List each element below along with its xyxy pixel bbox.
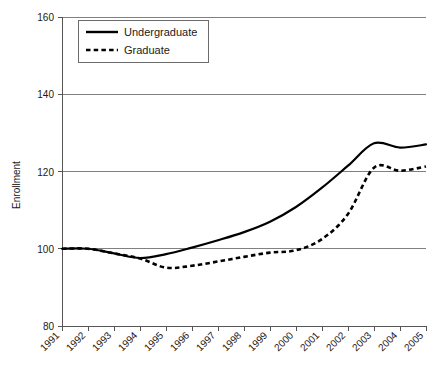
legend-label-graduate: Graduate [124,44,170,56]
y-tick-label: 160 [37,12,54,23]
y-tick-label: 100 [37,244,54,255]
chart-container: 80100120140160 1991199219931994199519961… [0,0,448,369]
y-tick-label: 120 [37,167,54,178]
y-tick-label: 140 [37,89,54,100]
enrollment-line-chart: 80100120140160 1991199219931994199519961… [0,0,448,369]
chart-background [0,0,448,369]
legend: Undergraduate Graduate [78,20,208,62]
y-axis-title: Enrollment [11,161,22,209]
legend-label-undergraduate: Undergraduate [124,26,197,38]
